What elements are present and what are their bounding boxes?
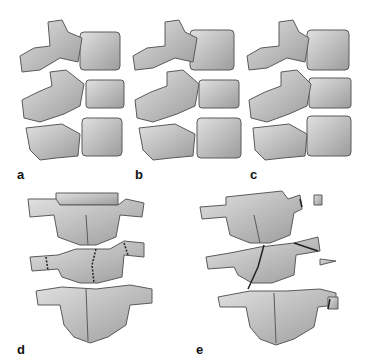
panel-d: d	[0, 185, 190, 361]
lateral-vertebrae-illustration	[245, 0, 372, 185]
panel-label-c: c	[250, 168, 257, 181]
lateral-vertebrae-illustration	[0, 0, 125, 185]
panel-e: e	[190, 185, 372, 361]
panel-a: a	[0, 0, 125, 185]
lateral-vertebrae-illustration	[125, 0, 245, 185]
panel-c: c	[245, 0, 372, 185]
posterior-vertebrae-illustration	[190, 185, 372, 361]
posterior-vertebrae-illustration	[0, 185, 190, 361]
panel-label-b: b	[135, 168, 143, 181]
panel-label-d: d	[17, 343, 25, 356]
panel-label-a: a	[17, 168, 24, 181]
panel-b: b	[125, 0, 245, 185]
panel-label-e: e	[196, 343, 203, 356]
